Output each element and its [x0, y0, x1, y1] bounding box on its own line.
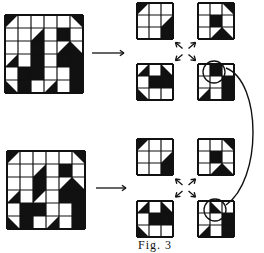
highlight-circle-1 — [203, 61, 225, 83]
bottom-diagonal-arrow-icon-2-head — [191, 179, 196, 180]
highlight-circle-2 — [204, 199, 226, 221]
bottom-diagonal-arrow-icon-3-head — [176, 196, 181, 197]
figure-caption: Fig. 3 — [138, 238, 172, 253]
connector-curve — [226, 68, 253, 205]
top-diagonal-arrow-icon-3-head — [176, 60, 181, 61]
top-diagonal-arrow-icon-2-head — [191, 43, 196, 44]
